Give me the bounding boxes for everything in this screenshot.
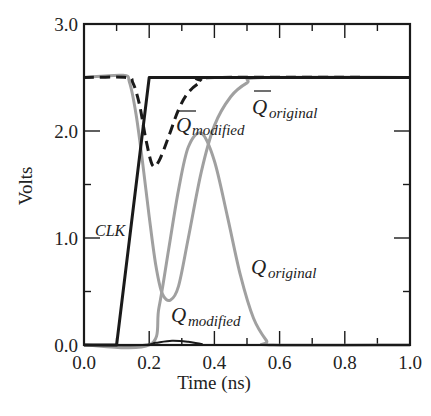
- x-tick-label: 1.0: [398, 352, 422, 373]
- chart-curves: [84, 75, 410, 348]
- svg-text:original: original: [269, 105, 317, 121]
- x-tick-label: 0.6: [268, 352, 292, 373]
- q-modified-label: Q modified: [171, 303, 241, 329]
- svg-text:modified: modified: [188, 313, 241, 329]
- svg-text:Q: Q: [252, 95, 267, 119]
- x-tick-label: 0.4: [203, 352, 227, 373]
- svg-text:Q: Q: [176, 113, 191, 137]
- curve-q-original: [84, 133, 410, 348]
- svg-text:original: original: [268, 265, 316, 281]
- curve-clk: [84, 78, 410, 346]
- curve-q-original: [84, 75, 410, 300]
- x-tick-label: 0.2: [137, 352, 161, 373]
- y-tick-label: 3.0: [54, 14, 78, 35]
- svg-text:Q: Q: [171, 303, 186, 327]
- chart-canvas: 0.00.20.40.60.81.00.01.02.03.0 Time (ns)…: [0, 0, 431, 416]
- svg-text:modified: modified: [192, 122, 245, 138]
- q-original-label: Q original: [251, 255, 316, 281]
- y-tick-label: 2.0: [54, 121, 78, 142]
- svg-text:Q: Q: [251, 255, 266, 279]
- qbar-original-label: Q original: [252, 91, 317, 121]
- clk-label: CLK: [95, 222, 127, 239]
- y-tick-label: 0.0: [54, 335, 78, 356]
- qbar-modified-label: Q modified: [176, 111, 245, 138]
- y-tick-label: 1.0: [54, 228, 78, 249]
- x-tick-label: 0.8: [333, 352, 357, 373]
- x-axis-title: Time (ns): [177, 372, 251, 394]
- y-axis-title: Volts: [15, 167, 36, 206]
